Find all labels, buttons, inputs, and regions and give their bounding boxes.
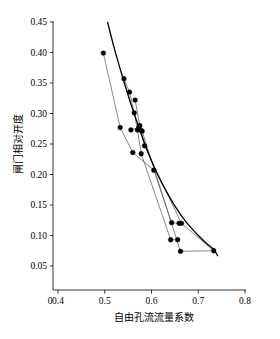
data-point bbox=[169, 220, 174, 225]
y-tick-label: 0.45 bbox=[30, 17, 47, 27]
y-tick-label: 0.15 bbox=[30, 200, 47, 210]
y-tick-label: 0.30 bbox=[30, 109, 47, 119]
data-series-group bbox=[103, 53, 213, 251]
y-tick-label: 0.40 bbox=[30, 48, 47, 58]
data-point bbox=[130, 150, 135, 155]
series-line-series-3 bbox=[135, 100, 214, 251]
series-line-series-1 bbox=[103, 53, 179, 223]
data-point bbox=[142, 143, 147, 148]
x-tick-label: 0.8 bbox=[239, 296, 251, 306]
data-point bbox=[133, 98, 138, 103]
x-tick-label: 0.7 bbox=[192, 296, 204, 306]
y-tick-label: 0.35 bbox=[30, 78, 47, 88]
data-point bbox=[179, 221, 184, 226]
x-tick-label: 0.6 bbox=[146, 296, 158, 306]
x-origin-label: 0 bbox=[48, 296, 53, 306]
x-axis-ticks: 0.40.50.60.70.8 bbox=[52, 290, 251, 306]
axes-group: 0.050.100.150.200.250.300.350.400.45 0.4… bbox=[30, 17, 251, 306]
data-point bbox=[137, 123, 142, 128]
data-point bbox=[122, 76, 127, 81]
y-tick-label: 0.10 bbox=[30, 231, 47, 241]
data-point bbox=[140, 129, 145, 134]
y-tick-label: 0.05 bbox=[30, 261, 47, 271]
data-point bbox=[118, 125, 123, 130]
y-tick-label: 0.20 bbox=[30, 170, 47, 180]
scatter-plot: 0.050.100.150.200.250.300.350.400.45 0.4… bbox=[0, 0, 280, 339]
y-axis-title: 闸门相对开度 bbox=[12, 114, 24, 174]
data-point bbox=[129, 128, 134, 133]
data-point bbox=[175, 237, 180, 242]
data-point bbox=[151, 168, 156, 173]
data-point bbox=[168, 237, 173, 242]
chart-container: 0.050.100.150.200.250.300.350.400.45 0.4… bbox=[0, 0, 280, 339]
data-point bbox=[178, 249, 183, 254]
data-point bbox=[211, 248, 216, 253]
data-point bbox=[127, 90, 132, 95]
data-points-group bbox=[101, 51, 216, 254]
fitted-curve-group bbox=[108, 22, 218, 256]
y-axis-ticks: 0.050.100.150.200.250.300.350.400.45 bbox=[30, 17, 53, 271]
x-axis-title: 自由孔流流量系数 bbox=[114, 311, 194, 323]
x-tick-label: 0.5 bbox=[99, 296, 111, 306]
y-tick-label: 0.25 bbox=[30, 139, 47, 149]
data-point bbox=[139, 151, 144, 156]
fitted-curve bbox=[108, 22, 218, 256]
data-point bbox=[132, 110, 137, 115]
x-tick-label: 0.4 bbox=[52, 296, 64, 306]
data-point bbox=[101, 51, 106, 56]
